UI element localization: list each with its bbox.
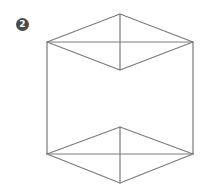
wireframe-figure [0,0,212,192]
